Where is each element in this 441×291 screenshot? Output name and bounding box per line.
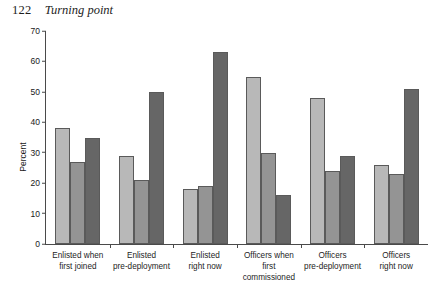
y-axis-tick: 50 — [31, 88, 46, 97]
category-labels: Enlisted whenfirst joinedEnlistedpre-dep… — [46, 250, 428, 283]
y-axis-tick-label: 30 — [31, 148, 40, 157]
bar — [310, 98, 325, 244]
y-axis-tick: 70 — [31, 27, 46, 36]
y-axis-tick-label: 0 — [35, 240, 40, 249]
category-label-line: Officers when first — [238, 250, 300, 272]
bar — [134, 180, 149, 244]
y-axis-tick-label: 50 — [31, 88, 40, 97]
y-axis-tick: 0 — [35, 240, 46, 249]
y-axis-tick-label: 10 — [31, 209, 40, 218]
y-axis-tick: 10 — [31, 209, 46, 218]
category-label-line: pre-deployment — [302, 261, 364, 272]
bar — [276, 195, 291, 244]
category-label-line: Officers — [302, 250, 364, 261]
bar-group — [110, 31, 174, 244]
category-label: Officersright now — [364, 250, 428, 283]
category-label-line: Enlisted when — [47, 250, 109, 261]
bar-group — [46, 31, 110, 244]
y-axis-tick-label: 70 — [31, 27, 40, 36]
bar — [340, 156, 355, 244]
category-label-line: right now — [174, 261, 236, 272]
bar — [389, 174, 404, 244]
bar — [183, 189, 198, 244]
bar — [149, 92, 164, 244]
category-label-line: Enlisted — [174, 250, 236, 261]
category-label-line: pre-deployment — [111, 261, 173, 272]
bar-group — [364, 31, 428, 244]
bar — [374, 165, 389, 244]
bar-group — [237, 31, 301, 244]
bar — [85, 138, 100, 245]
bar — [325, 171, 340, 244]
bar — [70, 162, 85, 244]
page-number: 122 — [12, 3, 32, 18]
running-head: Turning point — [45, 3, 113, 18]
bar-group — [301, 31, 365, 244]
y-axis-tick-label: 20 — [31, 179, 40, 188]
y-axis-label: Percent — [18, 142, 28, 171]
bar — [261, 153, 276, 244]
category-label-line: Officers — [365, 250, 427, 261]
bar — [404, 89, 419, 244]
x-axis-tick-mark — [237, 244, 238, 248]
y-axis-tick: 20 — [31, 179, 46, 188]
category-label-line: Enlisted — [111, 250, 173, 261]
y-axis-tick: 30 — [31, 148, 46, 157]
category-label: Enlisted whenfirst joined — [46, 250, 110, 283]
bar — [213, 52, 228, 244]
y-axis-tick-label: 40 — [31, 118, 40, 127]
category-label-line: commissioned — [238, 272, 300, 283]
category-label: Enlistedpre-deployment — [110, 250, 174, 283]
bar — [119, 156, 134, 244]
bar-chart-figure: Percent 010203040506070 Enlisted whenfir… — [0, 22, 441, 291]
x-axis-tick-mark — [173, 244, 174, 248]
x-axis-tick-mark — [301, 244, 302, 248]
bar-group — [173, 31, 237, 244]
y-axis-tick: 60 — [31, 57, 46, 66]
bar — [198, 186, 213, 244]
category-label: Enlistedright now — [173, 250, 237, 283]
category-label: Officers when firstcommissioned — [237, 250, 301, 283]
x-axis-tick-mark — [110, 244, 111, 248]
bar — [246, 77, 261, 244]
y-axis-tick: 40 — [31, 118, 46, 127]
x-axis-tick-mark — [364, 244, 365, 248]
y-axis-tick-label: 60 — [31, 57, 40, 66]
category-label-line: first joined — [47, 261, 109, 272]
page-header: 122 Turning point — [12, 3, 113, 18]
category-label-line: right now — [365, 261, 427, 272]
category-label: Officerspre-deployment — [301, 250, 365, 283]
bar — [55, 128, 70, 244]
bar-groups — [46, 31, 428, 244]
